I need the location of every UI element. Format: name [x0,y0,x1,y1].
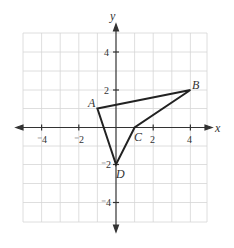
x-tick-neg4: ⁻4 [37,134,47,145]
x-tick-neg2: ⁻2 [74,134,84,145]
y-tick-neg2: ⁻2 [101,159,111,170]
y-axis-label: y [109,9,116,23]
vertex-label-b: B [192,78,200,92]
vertex-label-d: D [115,167,125,181]
x-axis-right-arrow-icon [205,125,212,130]
vertex-label-c: C [134,130,143,144]
vertex-label-a: A [87,96,96,110]
x-tick-2: 2 [150,134,155,145]
y-tick-2: 2 [104,85,109,96]
x-axis-left-arrow-icon [16,125,23,130]
y-axis-down-arrow-icon [114,225,119,232]
axes [16,24,212,232]
y-tick-neg4: ⁻4 [101,197,111,208]
x-axis-label: x [214,121,221,135]
coordinate-plane: y x ⁻4 ⁻2 2 4 4 2 ⁻2 ⁻4 A B C D [0,0,234,248]
y-axis-up-arrow-icon [114,24,119,31]
y-tick-4: 4 [104,47,109,58]
x-tick-4: 4 [187,134,192,145]
